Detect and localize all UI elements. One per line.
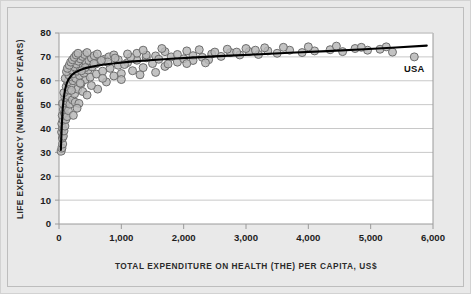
data-point <box>99 74 107 82</box>
y-tick-label-50: 50 <box>40 99 51 110</box>
data-point <box>195 46 203 54</box>
data-point <box>304 43 312 51</box>
data-point <box>110 72 118 80</box>
data-point <box>111 54 119 62</box>
data-point <box>211 48 219 56</box>
data-point <box>139 46 147 54</box>
y-axis-ticks-group: 01020304050607080 <box>40 27 59 229</box>
y-tick-label-80: 80 <box>40 27 51 38</box>
data-point <box>158 45 166 53</box>
y-tick-label-10: 10 <box>40 195 51 206</box>
annotation-label-usa: USA <box>404 63 425 74</box>
x-axis-ticks-group: 01,0002,0003,0004,0005,0006,000 <box>56 224 445 243</box>
data-point <box>152 68 160 76</box>
data-point <box>83 49 91 57</box>
data-point <box>242 45 250 53</box>
x-axis-title: TOTAL EXPENDITURE ON HEALTH (THE) PER CA… <box>115 261 377 271</box>
y-tick-label-20: 20 <box>40 171 51 182</box>
y-tick-label-60: 60 <box>40 75 51 86</box>
data-point <box>261 44 269 52</box>
data-point <box>76 79 84 87</box>
x-tick-label-1000: 1,000 <box>109 232 133 243</box>
data-point <box>183 47 191 55</box>
x-tick-label-2000: 2,000 <box>172 232 196 243</box>
x-tick-label-4000: 4,000 <box>296 232 320 243</box>
data-point <box>97 56 105 64</box>
data-point <box>201 59 209 67</box>
chart-figure: 01020304050607080 01,0002,0003,0004,0005… <box>0 0 471 294</box>
y-tick-label-0: 0 <box>46 218 51 229</box>
data-point <box>332 42 340 50</box>
data-point <box>67 86 75 94</box>
data-point <box>74 49 82 57</box>
data-point <box>83 91 91 99</box>
y-tick-label-70: 70 <box>40 51 51 62</box>
y-tick-label-40: 40 <box>40 123 51 134</box>
data-point <box>279 43 287 51</box>
data-point <box>117 76 125 84</box>
annotations-group: USA <box>404 63 425 74</box>
data-point <box>382 43 390 51</box>
data-point <box>251 46 259 54</box>
data-point <box>87 82 95 90</box>
data-point <box>136 71 144 79</box>
data-point <box>410 53 418 61</box>
data-point <box>183 60 191 68</box>
x-tick-label-5000: 5,000 <box>359 232 383 243</box>
data-point <box>129 67 137 75</box>
x-tick-label-6000: 6,000 <box>421 232 445 243</box>
scatter-chart: 01020304050607080 01,0002,0003,0004,0005… <box>1 1 471 294</box>
x-tick-label-3000: 3,000 <box>234 232 258 243</box>
y-axis-title: LIFE EXPECTANCY (NUMBER OF YEARS) <box>15 39 25 219</box>
data-point <box>124 50 132 58</box>
data-point <box>164 60 172 68</box>
data-point <box>73 104 81 112</box>
y-tick-label-30: 30 <box>40 147 51 158</box>
data-point <box>223 45 231 53</box>
x-tick-label-0: 0 <box>56 232 61 243</box>
